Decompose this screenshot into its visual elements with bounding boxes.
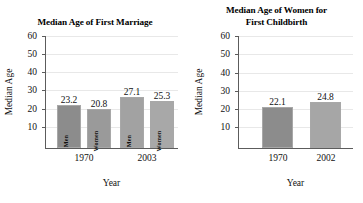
- axes-childbirth: 10 20 30 40 50: [238, 37, 353, 149]
- tick-50: 50: [42, 54, 46, 55]
- x-axis-label-childbirth: Year: [238, 178, 353, 188]
- bar-men-1970[interactable]: 23.2 Men: [57, 105, 81, 148]
- y-tick-label-40: 40: [221, 68, 231, 78]
- bar-1970[interactable]: 22.1: [262, 107, 293, 148]
- y-tick-label-50: 50: [221, 49, 231, 59]
- chart-median-age-first-marriage: Median Age of First Marriage Median Age …: [0, 0, 190, 203]
- y-tick-label-30: 30: [28, 85, 38, 95]
- y-tick-label-10: 10: [221, 122, 231, 132]
- y-tick-label-40: 40: [28, 67, 38, 77]
- figure-page: Median Age of First Marriage Median Age …: [0, 0, 363, 203]
- tick-30: 30: [235, 91, 239, 92]
- bar-value-women-1970: 20.8: [91, 99, 108, 109]
- gridline-50: [46, 54, 178, 55]
- bar-inner-label-women-1970: Women: [92, 130, 99, 151]
- y-tick-label-30: 30: [221, 86, 231, 96]
- y-tick-label-20: 20: [28, 104, 38, 114]
- x-tick-label-1970: 1970: [75, 153, 94, 163]
- bar-inner-label-men-1970: Men: [62, 134, 69, 146]
- chart-median-age-women-first-childbirth: Median Age of Women for First Childbirth…: [190, 0, 363, 203]
- chart-title-marriage: Median Age of First Marriage: [0, 0, 190, 29]
- gridline-30: [239, 91, 353, 92]
- bar-value-women-2003: 25.3: [154, 91, 171, 101]
- tick-30: 30: [42, 90, 46, 91]
- y-tick-label-10: 10: [28, 122, 38, 132]
- y-tick-label-50: 50: [28, 49, 38, 59]
- chart-title-childbirth: Median Age of Women for First Childbirth: [190, 0, 363, 28]
- bar-value-men-1970: 23.2: [61, 95, 78, 105]
- y-tick-label-60: 60: [221, 31, 231, 41]
- x-tick-label-2002: 2002: [317, 153, 336, 163]
- bar-value-1970: 22.1: [269, 97, 286, 107]
- tick-40: 40: [235, 73, 239, 74]
- tick-60: 60: [235, 36, 239, 37]
- tick-10: 10: [42, 127, 46, 128]
- tick-20: 20: [235, 109, 239, 110]
- y-axis-label-text: Median Age: [4, 68, 14, 115]
- y-axis-label-text: Median Age: [194, 69, 204, 116]
- x-tick-label-2003: 2003: [138, 153, 157, 163]
- chart-title-childbirth-line2: First Childbirth: [190, 17, 363, 29]
- x-tick-label-1970: 1970: [269, 153, 288, 163]
- y-axis-label-childbirth: Median Age: [192, 37, 206, 147]
- tick-60: 60: [42, 36, 46, 37]
- bar-inner-label-women-2003: Women: [155, 130, 162, 151]
- bar-men-2003[interactable]: 27.1 Men: [120, 97, 144, 147]
- gridline-60: [46, 36, 178, 37]
- bar-women-2003[interactable]: 25.3 Women: [150, 101, 174, 148]
- gridline-40: [46, 72, 178, 73]
- gridline-40: [239, 73, 353, 74]
- x-axis-line: [238, 148, 353, 149]
- tick-20: 20: [42, 109, 46, 110]
- y-axis-label-marriage: Median Age: [2, 37, 16, 147]
- tick-40: 40: [42, 72, 46, 73]
- x-axis-label-marriage: Year: [45, 178, 178, 188]
- axes-marriage: 10 20 30 40 50: [45, 37, 178, 149]
- bar-value-men-2003: 27.1: [124, 87, 141, 97]
- tick-10: 10: [235, 127, 239, 128]
- bar-women-1970[interactable]: 20.8 Women: [87, 109, 111, 148]
- bar-2002[interactable]: 24.8: [310, 102, 341, 148]
- chart-title-childbirth-line1: Median Age of Women for: [190, 5, 363, 17]
- y-tick-label-60: 60: [28, 31, 38, 41]
- bar-inner-label-men-2003: Men: [125, 134, 132, 146]
- gridline-60: [239, 36, 353, 37]
- gridline-50: [239, 54, 353, 55]
- bar-value-2002: 24.8: [317, 92, 334, 102]
- tick-50: 50: [235, 54, 239, 55]
- y-tick-label-20: 20: [221, 104, 231, 114]
